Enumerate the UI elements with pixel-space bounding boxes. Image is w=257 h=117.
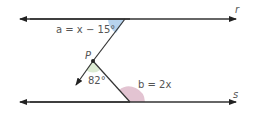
point-p-label: P bbox=[85, 50, 92, 61]
point-p-dot bbox=[91, 59, 95, 63]
angle-b-label: b = 2x bbox=[138, 79, 171, 90]
angle-p-label: 82° bbox=[88, 75, 106, 86]
line-r-label: r bbox=[235, 4, 240, 15]
line-s-label: s bbox=[233, 89, 238, 100]
angle-a-label: a = x − 15° bbox=[56, 24, 115, 35]
parallel-lines-diagram: r s P a = x − 15° 82° b = 2x bbox=[0, 0, 257, 117]
